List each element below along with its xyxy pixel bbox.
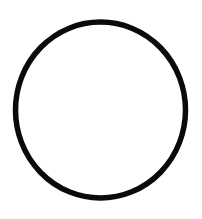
background bbox=[0, 0, 202, 219]
circle-diagram bbox=[0, 0, 202, 219]
diagram-canvas bbox=[0, 0, 202, 219]
